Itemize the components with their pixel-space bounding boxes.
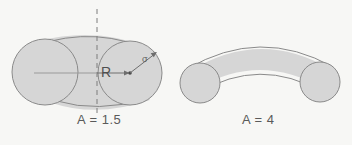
- geometry-figure: R σ A = 1.5 A = 4: [0, 0, 352, 145]
- left-sphere-right-panel: [180, 63, 220, 103]
- panel-left-shapes: [12, 9, 162, 113]
- radius-label: R: [101, 64, 111, 80]
- panel-left-caption: A = 1.5: [77, 112, 121, 127]
- sigma-label: σ: [142, 54, 148, 64]
- right-sphere-right-panel: [300, 62, 340, 102]
- panel-right-caption: A = 4: [242, 112, 275, 127]
- panel-right-shapes: [180, 47, 340, 103]
- figure-canvas: [0, 0, 352, 145]
- left-sphere-left-panel: [12, 39, 78, 105]
